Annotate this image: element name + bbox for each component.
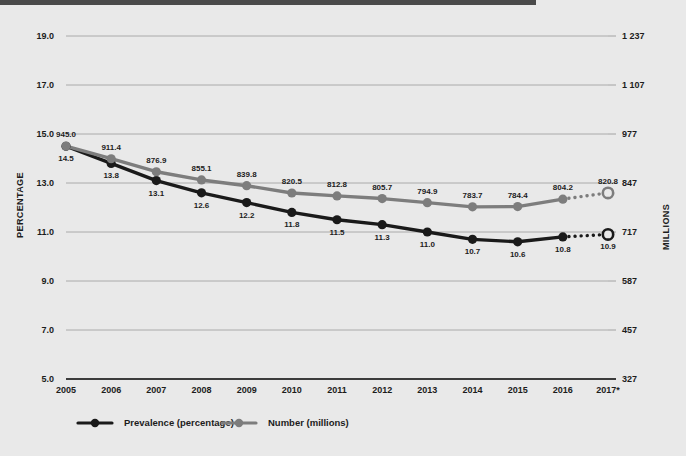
chart-legend: Prevalence (percentage)Number (millions) <box>78 417 349 428</box>
x-axis-tick-label: 2011 <box>327 385 347 395</box>
data-point-value-label: 11.0 <box>420 240 436 249</box>
data-point-value-label: 11.5 <box>329 228 345 237</box>
data-point-value-label: 12.6 <box>194 201 210 210</box>
gridlines-group <box>66 36 608 379</box>
y-axis-left-tick-label: 17.0 <box>36 80 54 90</box>
data-point-value-label: 783.7 <box>462 191 483 200</box>
y-axis-left-tick-label: 5.0 <box>41 374 54 384</box>
data-point-marker <box>378 220 387 229</box>
data-point-marker <box>378 194 387 203</box>
data-point-marker <box>61 141 70 150</box>
x-axis-tick-label: 2009 <box>237 385 257 395</box>
series-line-projected <box>563 193 608 199</box>
y-axis-right-tick-label: 1 107 <box>622 80 645 90</box>
x-axis-tick-label: 2016 <box>553 385 573 395</box>
y-axis-left-tick-label: 7.0 <box>41 325 54 335</box>
data-point-marker <box>287 188 296 197</box>
series-line-projected <box>563 234 608 236</box>
data-point-marker <box>242 198 251 207</box>
data-point-marker <box>107 154 116 163</box>
x-axis-tick-label: 2012 <box>372 385 392 395</box>
x-axis-tick-label: 2017* <box>596 385 620 395</box>
data-point-value-label: 10.6 <box>510 250 526 259</box>
data-point-marker <box>197 175 206 184</box>
data-point-value-label: 11.3 <box>375 233 391 242</box>
y-axis-right-tick-label: 327 <box>622 374 637 384</box>
data-point-value-label: 14.5 <box>58 154 74 163</box>
legend-marker-swatch <box>91 419 99 427</box>
x-axis-tick-label: 2006 <box>101 385 121 395</box>
data-point-marker <box>558 232 567 241</box>
data-point-marker <box>468 202 477 211</box>
y-axis-right-tick-label: 977 <box>622 129 637 139</box>
x-axis-tick-label: 2005 <box>56 385 76 395</box>
x-axis-tick-label: 2008 <box>191 385 211 395</box>
y-axis-left-ticks: 19.017.015.013.011.09.07.05.0 <box>36 31 54 384</box>
series-line-solid <box>66 146 563 207</box>
data-point-value-label: 804.2 <box>553 183 574 192</box>
x-axis-tick-label: 2010 <box>282 385 302 395</box>
data-point-marker <box>287 208 296 217</box>
data-point-value-label: 13.8 <box>103 171 119 180</box>
y-axis-right-ticks: 1 2371 107977847717587457327 <box>608 31 645 384</box>
data-point-marker <box>242 181 251 190</box>
data-point-value-label: 820.8 <box>598 177 619 186</box>
x-axis-tick-label: 2013 <box>417 385 437 395</box>
data-point-value-label: 10.8 <box>555 245 571 254</box>
data-point-value-label: 11.8 <box>284 220 300 229</box>
data-point-marker <box>513 202 522 211</box>
legend-marker-swatch <box>235 419 243 427</box>
data-point-marker <box>558 195 567 204</box>
y-axis-right-tick-label: 1 237 <box>622 31 645 41</box>
data-point-value-label: 876.9 <box>146 156 167 165</box>
data-point-marker <box>423 227 432 236</box>
y-axis-left-tick-label: 15.0 <box>36 129 54 139</box>
data-point-value-label: 855.1 <box>191 164 212 173</box>
data-point-value-label: 805.7 <box>372 183 393 192</box>
y-axis-right-tick-label: 847 <box>622 178 637 188</box>
data-point-value-label: 13.1 <box>149 189 165 198</box>
data-point-value-label: 812.8 <box>327 180 348 189</box>
data-point-marker <box>152 167 161 176</box>
y-axis-left-tick-label: 13.0 <box>36 178 54 188</box>
y-axis-left-title: PERCENTAGE <box>15 165 25 245</box>
y-axis-left-tick-label: 9.0 <box>41 276 54 286</box>
data-point-value-label: 820.5 <box>282 177 303 186</box>
data-point-marker <box>423 198 432 207</box>
y-axis-left-tick-label: 19.0 <box>36 31 54 41</box>
data-point-marker <box>468 235 477 244</box>
x-axis-tick-label: 2014 <box>462 385 482 395</box>
data-point-marker-projected <box>603 188 613 198</box>
x-axis-tick-label: 2015 <box>508 385 528 395</box>
data-point-value-label: 794.9 <box>417 187 438 196</box>
x-axis-tick-label: 2007 <box>146 385 166 395</box>
data-point-marker <box>513 237 522 246</box>
x-axis-ticks: 2005200620072008200920102011201220132014… <box>56 385 620 395</box>
data-point-marker-projected <box>603 229 613 239</box>
legend-item-label: Prevalence (percentage) <box>124 417 234 428</box>
data-point-marker <box>197 188 206 197</box>
legend-item-label: Number (millions) <box>268 417 349 428</box>
data-point-value-label: 945.0 <box>56 130 77 139</box>
y-axis-left-tick-label: 11.0 <box>37 227 54 237</box>
data-point-marker <box>332 191 341 200</box>
y-axis-right-tick-label: 717 <box>622 227 637 237</box>
y-axis-right-tick-label: 457 <box>622 325 637 335</box>
chart-figure: 19.017.015.013.011.09.07.05.0 1 2371 107… <box>0 0 686 456</box>
data-point-value-label: 839.8 <box>237 170 258 179</box>
data-point-value-label: 784.4 <box>508 191 529 200</box>
data-point-marker <box>152 176 161 185</box>
data-point-value-label: 10.9 <box>600 242 616 251</box>
data-point-marker <box>332 215 341 224</box>
line-chart: 19.017.015.013.011.09.07.05.0 1 2371 107… <box>0 0 686 456</box>
data-point-value-label: 12.2 <box>239 211 255 220</box>
data-point-value-label: 10.7 <box>465 247 481 256</box>
y-axis-right-title: MILLIONS <box>661 187 671 267</box>
data-point-value-label: 911.4 <box>101 143 121 152</box>
y-axis-right-tick-label: 587 <box>622 276 637 286</box>
